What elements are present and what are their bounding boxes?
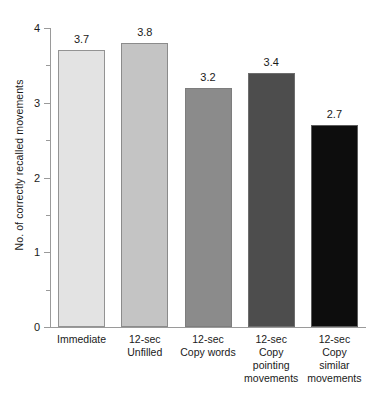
y-tick-label: 4 (34, 23, 40, 34)
bar[interactable] (58, 50, 105, 327)
bar-group[interactable]: 3.2 (185, 28, 232, 327)
x-category-label-line: 12-sec (113, 333, 176, 346)
x-category-label-line: 12-sec (176, 333, 239, 346)
x-category-label-line: movements (303, 372, 366, 385)
bar-chart-figure: No. of correctly recalled movements 0123… (0, 0, 373, 401)
bar-group[interactable]: 3.8 (121, 28, 168, 327)
x-category-label-line: 12-sec (303, 333, 366, 346)
x-axis-category-labels: Immediate12-secUnfilled12-secCopy words1… (50, 333, 366, 399)
x-category-label-line: Copy (240, 346, 303, 359)
bar-value-label: 3.2 (185, 72, 232, 83)
y-tick-label: 2 (34, 172, 40, 183)
y-tick-label: 1 (34, 247, 40, 258)
plot-area: 01234 3.73.83.23.42.7 (50, 28, 366, 327)
bar-value-label: 3.7 (58, 34, 105, 45)
bar-value-label: 3.8 (121, 27, 168, 38)
bar[interactable] (248, 73, 295, 327)
x-category-label-line: Copy words (176, 346, 239, 359)
x-category-label-line: 12-sec (240, 333, 303, 346)
x-category-label-line: Unfilled (113, 346, 176, 359)
bar-series: 3.73.83.23.42.7 (50, 28, 366, 327)
x-category-label-line: similar (303, 359, 366, 372)
y-tick-label: 0 (34, 322, 40, 333)
bar[interactable] (121, 43, 168, 327)
bar[interactable] (185, 88, 232, 327)
x-category-label: 12-secCopy words (176, 333, 239, 359)
x-category-label: 12-secUnfilled (113, 333, 176, 359)
y-axis-title: No. of correctly recalled movements (8, 0, 30, 330)
bar-group[interactable]: 2.7 (311, 28, 358, 327)
bar-value-label: 3.4 (248, 57, 295, 68)
x-category-label-line: pointing (240, 359, 303, 372)
x-category-label-line: Immediate (50, 333, 113, 346)
x-category-label: 12-secCopysimilarmovements (303, 333, 366, 385)
y-tick-label: 3 (34, 97, 40, 108)
y-axis-title-text: No. of correctly recalled movements (13, 80, 25, 251)
x-category-label: Immediate (50, 333, 113, 346)
x-category-label-line: Copy (303, 346, 366, 359)
bar[interactable] (311, 125, 358, 327)
x-category-label-line: movements (240, 372, 303, 385)
y-tick-major: 0 (44, 327, 50, 328)
x-category-label: 12-secCopypointingmovements (240, 333, 303, 385)
bar-group[interactable]: 3.4 (248, 28, 295, 327)
x-axis-line (50, 327, 366, 328)
bar-value-label: 2.7 (311, 109, 358, 120)
bar-group[interactable]: 3.7 (58, 28, 105, 327)
